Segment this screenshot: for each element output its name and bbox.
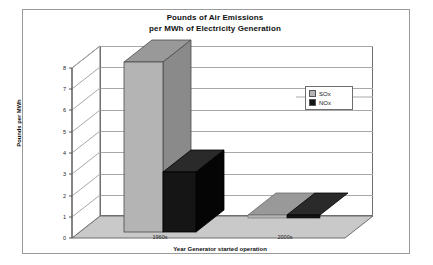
bar-sox-1960s-front[interactable] — [124, 62, 163, 232]
legend-swatch-sox-icon — [309, 90, 316, 97]
screenshot-root: Pounds of Air Emissions per MWh of Elect… — [0, 0, 433, 265]
chart-floor — [72, 216, 373, 238]
x-axis-title: Year Generator started operation — [120, 246, 320, 252]
bar-nox-1960s-front[interactable] — [163, 172, 196, 232]
y-tick-label-5: 5 — [50, 129, 66, 135]
y-tick-label-7: 7 — [50, 86, 66, 92]
chart-legend[interactable]: SOx NOx — [305, 86, 353, 110]
bar-nox-2000s-front[interactable] — [287, 215, 320, 218]
y-tick-label-6: 6 — [50, 107, 66, 113]
legend-label-sox: SOx — [319, 90, 331, 98]
legend-item-nox[interactable]: NOx — [309, 98, 349, 107]
y-tick-label-1: 1 — [50, 214, 66, 220]
legend-item-sox[interactable]: SOx — [309, 89, 349, 98]
y-tick-label-0: 0 — [50, 235, 66, 241]
bar-sox-2000s-front[interactable] — [248, 215, 287, 218]
legend-swatch-nox-icon — [309, 99, 316, 106]
y-tick-label-4: 4 — [50, 150, 66, 156]
x-tick-label-2000s: 2000s — [260, 234, 310, 240]
plot-area: 0 1 2 3 4 5 6 7 8 Pounds per MWh 1960s 2… — [0, 0, 433, 265]
y-tick-label-8: 8 — [50, 65, 66, 71]
y-tick-label-3: 3 — [50, 171, 66, 177]
y-tick-label-2: 2 — [50, 193, 66, 199]
y-axis-title: Pounds per MWh — [16, 88, 22, 158]
legend-label-nox: NOx — [319, 99, 331, 107]
x-tick-label-1960s: 1960s — [135, 234, 185, 240]
